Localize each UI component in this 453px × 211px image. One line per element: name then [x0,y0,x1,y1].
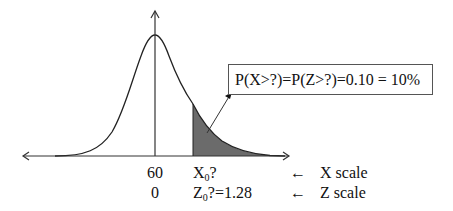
z-scale-arrow-icon: ← [290,184,306,201]
bell-curve [55,35,193,156]
z-mean-label: 0 [151,184,159,202]
x-cutoff-label: X0? [193,164,217,182]
x-mean-label: 60 [147,164,163,182]
z-cutoff-suffix: ?=1.28 [208,184,252,201]
x-cutoff-suffix: ? [210,164,217,181]
x-scale-row: ← X scale [290,164,368,182]
probability-callout-text: P(X>?)=P(Z>?)=0.10 = 10% [235,71,420,88]
x-cutoff-prefix: X [193,164,205,181]
z-scale-row: ← Z scale [290,184,366,202]
z-cutoff-label: Z0?=1.28 [193,184,252,202]
shaded-tail-region [193,104,270,156]
z-scale-label: Z scale [320,184,366,201]
z-cutoff-prefix: Z [193,184,203,201]
bell-curve-line [55,35,285,156]
x-scale-label: X scale [320,164,368,181]
x-scale-arrow-icon: ← [290,164,306,181]
callout-pointer-line [207,95,230,133]
probability-callout-box: P(X>?)=P(Z>?)=0.10 = 10% [228,64,433,95]
normal-curve-plot [0,0,453,211]
